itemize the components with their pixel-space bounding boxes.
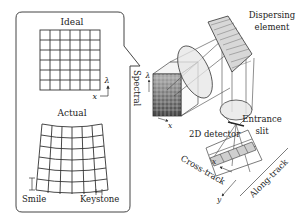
hyperspectral-diagram: Ideal λ x Actual (0, 0, 303, 221)
ground-y-label: y (216, 195, 222, 204)
detector-x-label: x (168, 121, 173, 130)
dispersing-label-line1: Dispersing (249, 10, 296, 20)
2d-detector-label: 2D detector (189, 129, 241, 139)
cross-track-arrow (220, 167, 232, 172)
keystone-label: Keystone (80, 194, 119, 204)
ground-swath (210, 142, 256, 166)
smile-label: Smile (22, 194, 46, 204)
detector-lambda-label: λ (145, 71, 151, 80)
spectral-label: Spectral (132, 70, 142, 107)
dispersing-label-line2: element (255, 22, 290, 32)
slit-label-line2: slit (255, 126, 269, 136)
slit-label-line1: Entrance (242, 114, 282, 124)
x-axis-label: x (92, 92, 97, 101)
lambda-axis-label: λ (103, 76, 109, 85)
ideal-label: Ideal (61, 17, 84, 27)
actual-label: Actual (56, 108, 86, 118)
distortion-inset: Ideal λ x Actual (16, 12, 140, 212)
